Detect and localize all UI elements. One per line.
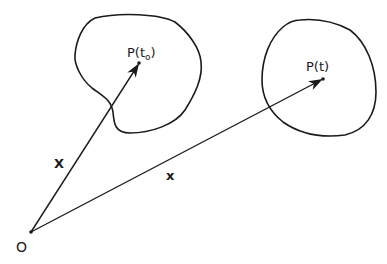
label-vector-X: X <box>54 156 64 171</box>
point-P-t <box>321 77 325 81</box>
label-origin: O <box>16 239 27 255</box>
body-current-outline <box>262 19 376 135</box>
label-vector-x: x <box>166 168 175 183</box>
point-P-t0 <box>137 61 141 65</box>
label-P-t: P(t) <box>306 59 329 74</box>
vector-x-arrow <box>31 80 321 232</box>
diagram-canvas: P(to) P(t) X x O <box>0 0 387 264</box>
body-initial-outline <box>75 15 201 133</box>
vector-X-arrow <box>31 65 138 232</box>
origin-point <box>29 230 33 234</box>
label-P-t0: P(to) <box>127 45 156 62</box>
